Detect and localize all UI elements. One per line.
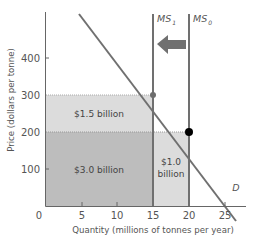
new-equilibrium-point — [150, 92, 156, 98]
area-1-0-billion-label-line1: $1.0 — [161, 157, 181, 167]
x-tick-label-25: 25 — [219, 210, 232, 221]
area-1-5-billion-label: $1.5 billion — [74, 109, 124, 119]
y-tick-label-200: 200 — [21, 127, 40, 138]
chart: 400 300 200 100 0 5 10 15 20 25 Quantity… — [0, 0, 258, 242]
area-3-0-billion-label: $3.0 billion — [74, 165, 124, 175]
x-tick-label-15: 15 — [147, 210, 160, 221]
arrow-left-icon — [157, 35, 186, 54]
origin-label: 0 — [36, 210, 42, 221]
demand-label: D — [232, 182, 239, 193]
y-tick-label-400: 400 — [21, 53, 40, 64]
x-tick-label-20: 20 — [183, 210, 196, 221]
x-tick-label-10: 10 — [111, 210, 124, 221]
ms1-label: MS1 — [157, 13, 176, 26]
x-axis-title: Quantity (millions of tonnes per year) — [72, 225, 234, 235]
area-1-0-billion-label-line2: billion — [158, 169, 185, 179]
ms0-label: MS0 — [193, 13, 212, 26]
y-tick-label-300: 300 — [21, 90, 40, 101]
y-tick-label-100: 100 — [21, 164, 40, 175]
y-axis-title: Price (dollars per tonne) — [6, 48, 16, 152]
x-tick-label-5: 5 — [79, 210, 85, 221]
original-equilibrium-point — [185, 128, 193, 136]
